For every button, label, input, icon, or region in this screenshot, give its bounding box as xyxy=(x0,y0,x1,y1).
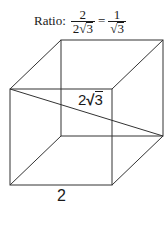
edge-bottom-left xyxy=(10,136,61,185)
edge-bottom-right xyxy=(112,136,163,185)
diag-radicand: 3 xyxy=(95,91,103,107)
edge-length-label: 2 xyxy=(57,187,66,205)
edge-top-right xyxy=(112,40,163,89)
radical-sign-icon: √ xyxy=(86,91,94,108)
diagonal-length-label: 2√3 xyxy=(78,91,103,108)
diag-coef: 2 xyxy=(78,91,86,108)
edge-top-left xyxy=(10,40,61,89)
